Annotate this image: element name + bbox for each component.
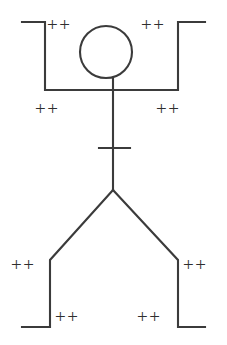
label-left-knee: ++	[11, 255, 35, 274]
stick-figure-diagram: ++++++++++++++++	[0, 0, 227, 345]
label-right-armpit: ++	[156, 99, 180, 118]
stick-figure-drawing	[0, 0, 227, 345]
label-left-shoulder-top: ++	[47, 15, 71, 34]
label-right-foot: ++	[137, 307, 161, 326]
label-right-knee: ++	[183, 255, 207, 274]
label-left-foot: ++	[55, 307, 79, 326]
label-left-armpit: ++	[35, 99, 59, 118]
label-right-shoulder-top: ++	[141, 15, 165, 34]
head-circle	[80, 26, 132, 78]
